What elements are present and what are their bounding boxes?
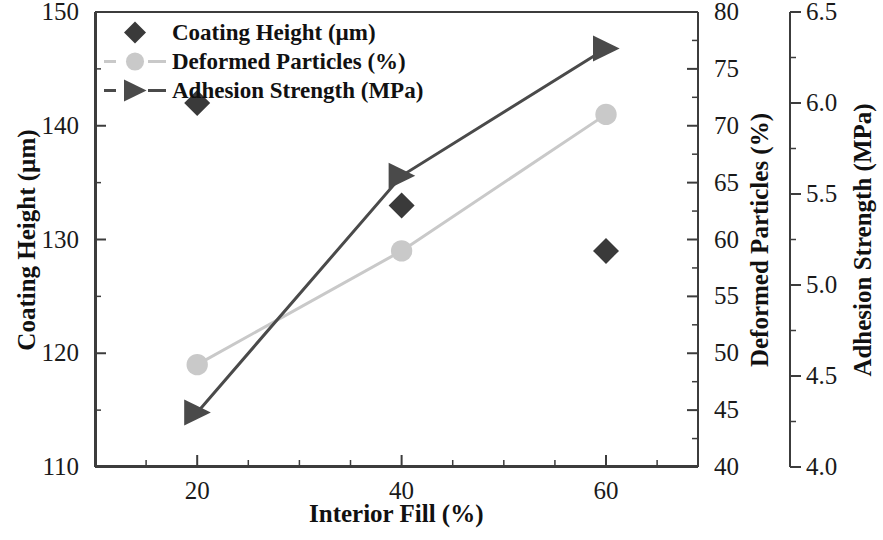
y1-tick-label: 120 [42, 339, 80, 367]
legend-marker-circle-icon [104, 47, 166, 76]
y2-axis-title: Deformed Particles (%) [746, 112, 774, 366]
x-tick-label: 40 [389, 477, 414, 505]
x-tick-label: 60 [594, 477, 619, 505]
y2-tick-label: 80 [714, 0, 739, 26]
datapoint-y1 [389, 192, 415, 218]
y2-tick-label: 65 [714, 169, 739, 197]
legend-marker-triangle-right-icon [104, 76, 166, 105]
y3-tick-label: 6.5 [806, 0, 837, 26]
legend-marker-diamond-icon [104, 18, 166, 47]
y2-tick-label: 50 [714, 339, 739, 367]
legend-label: Deformed Particles (%) [172, 49, 406, 75]
legend-label: Coating Height (µm) [172, 20, 376, 46]
y1-tick-label: 150 [42, 0, 80, 26]
y2-tick-label: 70 [714, 112, 739, 140]
datapoint-y2 [391, 240, 412, 261]
series-line [197, 114, 606, 364]
y3-tick-label: 5.5 [806, 180, 837, 208]
datapoint-y2 [595, 104, 616, 125]
datapoint-y3 [593, 35, 620, 61]
y2-tick-label: 60 [714, 226, 739, 254]
y2-tick-label: 40 [714, 453, 739, 481]
chart-legend: Coating Height (µm)Deformed Particles (%… [104, 18, 423, 105]
y1-tick-label: 110 [42, 453, 79, 481]
chart-figure: Coating Height (µm) Deformed Particles (… [0, 0, 883, 540]
y3-tick-label: 4.0 [806, 453, 837, 481]
datapoint-y1 [593, 238, 619, 264]
y2-tick-label: 75 [714, 55, 739, 83]
x-tick-label: 20 [185, 477, 210, 505]
y3-tick-label: 6.0 [806, 89, 837, 117]
legend-item[interactable]: Adhesion Strength (MPa) [104, 76, 423, 105]
y1-axis-title: Coating Height (µm) [12, 129, 40, 350]
datapoint-y2 [187, 354, 208, 375]
legend-label: Adhesion Strength (MPa) [172, 78, 423, 104]
y3-tick-label: 4.5 [806, 362, 837, 390]
legend-item[interactable]: Coating Height (µm) [104, 18, 423, 47]
y2-tick-label: 45 [714, 396, 739, 424]
y3-axis-title: Adhesion Strength (MPa) [848, 103, 876, 376]
y3-tick-label: 5.0 [806, 271, 837, 299]
y1-tick-label: 130 [42, 226, 80, 254]
datapoint-y3 [389, 163, 416, 189]
legend-item[interactable]: Deformed Particles (%) [104, 47, 423, 76]
y2-tick-label: 55 [714, 282, 739, 310]
y1-tick-label: 140 [42, 112, 80, 140]
